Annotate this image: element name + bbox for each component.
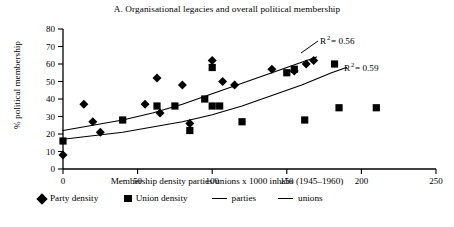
- party-density-point: [267, 65, 276, 74]
- y-tick-label: 60: [46, 59, 56, 69]
- r2-unions-annotation: R 2 = 0.59: [344, 61, 379, 74]
- legend-item-parties-line: parties: [212, 194, 257, 203]
- chart-figure: A. Organisational legacies and overall p…: [0, 0, 454, 227]
- y-tick-label: 50: [46, 77, 56, 87]
- union-density-point: [238, 118, 245, 125]
- y-axis-title: % political membership: [12, 10, 22, 160]
- line-marker-icon: [278, 198, 293, 199]
- legend-item-party-density: Party density: [38, 194, 98, 203]
- party-density-point: [141, 100, 150, 109]
- union-density-point: [59, 137, 66, 144]
- union-density-point: [171, 102, 178, 109]
- y-tick-label: 10: [46, 147, 56, 157]
- x-axis-title: Membership density parties/unions x 1000…: [0, 176, 454, 186]
- y-tick-label: 40: [46, 94, 56, 104]
- chart-legend: Party density Union density parties unio…: [38, 194, 323, 203]
- union-density-point: [331, 60, 338, 67]
- legend-item-unions-line: unions: [278, 194, 323, 203]
- r2-parties-superscript: 2: [327, 34, 330, 41]
- r2-unions-base: R: [344, 63, 351, 73]
- union-density-point: [301, 116, 308, 123]
- party-density-point: [178, 81, 187, 90]
- union-density-point: [209, 102, 216, 109]
- r2-parties-leader-line: [301, 41, 318, 53]
- y-tick-label: 0: [51, 164, 56, 174]
- legend-item-union-density: Union density: [124, 194, 187, 203]
- r2-parties-base: R: [320, 36, 327, 46]
- y-axis-ticks: 01020304050607080: [46, 24, 63, 174]
- legend-label-unions-line: unions: [298, 194, 323, 203]
- party-density-point: [79, 100, 88, 109]
- party-density-point: [218, 77, 227, 86]
- party-density-point: [302, 60, 311, 69]
- line-marker-icon: [212, 198, 227, 199]
- y-tick-label: 30: [46, 112, 56, 122]
- r2-parties-annotation: R 2 = 0.56: [320, 34, 355, 47]
- union-density-point: [283, 69, 290, 76]
- y-tick-label: 20: [46, 129, 56, 139]
- legend-label-parties-line: parties: [232, 194, 257, 203]
- union-density-point: [373, 104, 380, 111]
- party-density-point: [230, 81, 239, 90]
- legend-label-union-density: Union density: [136, 194, 188, 203]
- union-density-point: [201, 95, 208, 102]
- union-density-point: [119, 116, 126, 123]
- legend-label-party-density: Party density: [50, 194, 98, 203]
- diamond-marker-icon: [36, 193, 47, 204]
- party-density-points: [59, 56, 319, 160]
- y-tick-label: 80: [46, 24, 56, 34]
- r2-unions-superscript: 2: [351, 61, 354, 68]
- unions-fit-curve: [63, 68, 346, 140]
- r2-unions-value: = 0.59: [355, 63, 379, 73]
- party-density-point: [208, 56, 217, 65]
- union-density-point: [335, 104, 342, 111]
- union-density-point: [153, 102, 160, 109]
- party-density-point: [153, 74, 162, 83]
- union-density-point: [216, 102, 223, 109]
- square-marker-icon: [124, 195, 132, 203]
- r2-parties-value: = 0.56: [331, 36, 355, 46]
- y-tick-label: 70: [46, 42, 56, 52]
